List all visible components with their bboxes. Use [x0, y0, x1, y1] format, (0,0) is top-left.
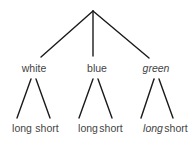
node-white: white: [21, 62, 47, 74]
edge-green-to-long: [141, 79, 154, 118]
node-blue: blue: [87, 62, 107, 74]
tree-labels: whitelongshortbluelongshortgreenlongshor…: [12, 62, 188, 134]
leaf-green-long: long: [143, 122, 163, 134]
edge-root-to-green: [93, 11, 149, 58]
edge-blue-to-short: [98, 79, 112, 118]
leaf-blue-long: long: [78, 122, 98, 134]
leaf-white-short: short: [35, 122, 58, 134]
edge-white-to-long: [17, 79, 31, 118]
tree-diagram: whitelongshortbluelongshortgreenlongshor…: [0, 0, 196, 148]
leaf-blue-short: short: [99, 122, 122, 134]
node-green: green: [143, 62, 170, 74]
leaf-white-long: long: [12, 122, 32, 134]
edge-white-to-short: [36, 79, 50, 118]
edge-green-to-short: [159, 79, 173, 118]
edge-blue-to-long: [79, 79, 93, 118]
leaf-green-short: short: [164, 122, 187, 134]
edge-root-to-white: [41, 11, 93, 57]
